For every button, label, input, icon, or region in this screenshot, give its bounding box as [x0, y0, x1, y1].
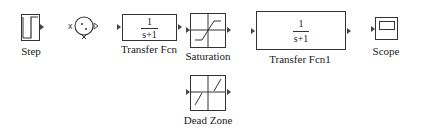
- transfer-fcn1-block[interactable]: 1 s+1: [256, 11, 346, 50]
- dead-zone-output-port[interactable]: [227, 89, 231, 95]
- svg-text:x: x: [68, 21, 73, 31]
- scope-block[interactable]: [375, 17, 398, 40]
- transfer-fcn-denominator: s+1: [123, 29, 176, 40]
- transfer-fcn-output-port[interactable]: [178, 24, 182, 30]
- saturation-icon: [190, 13, 226, 48]
- dead-zone-label: Dead Zone: [184, 114, 233, 126]
- transfer-fcn1-output-port[interactable]: [347, 28, 351, 34]
- transfer-fcn1-label: Transfer Fcn1: [269, 53, 331, 65]
- transfer-fcn1-denominator: s+1: [257, 33, 345, 44]
- dead-zone-icon: [190, 75, 226, 111]
- transfer-fcn-numerator: 1: [123, 16, 176, 27]
- saturation-label: Saturation: [185, 50, 230, 62]
- transfer-fcn1-fraction-bar: [293, 31, 309, 32]
- saturation-output-port[interactable]: [227, 27, 231, 33]
- transfer-fcn1-numerator: 1: [257, 18, 345, 29]
- dead-zone-block[interactable]: [190, 75, 226, 111]
- step-icon: [21, 14, 40, 41]
- scope-label: Scope: [373, 45, 400, 57]
- step-label: Step: [21, 45, 41, 57]
- step-block[interactable]: [21, 14, 40, 41]
- sum-dot-icon: [81, 23, 83, 25]
- transfer-fcn-label: Transfer Fcn: [121, 43, 177, 55]
- step-output-port[interactable]: [40, 24, 44, 30]
- scope-screen-icon: [379, 21, 395, 30]
- transfer-fcn-input-port[interactable]: [117, 24, 121, 30]
- transfer-fcn-block[interactable]: 1 s+1: [122, 14, 177, 41]
- sum-block[interactable]: x: [64, 14, 104, 42]
- diagram-canvas: Step x 1 s+1 Transfer Fcn Saturation 1 s…: [0, 0, 422, 130]
- saturation-block[interactable]: [190, 13, 226, 48]
- transfer-fcn1-input-port[interactable]: [251, 28, 255, 34]
